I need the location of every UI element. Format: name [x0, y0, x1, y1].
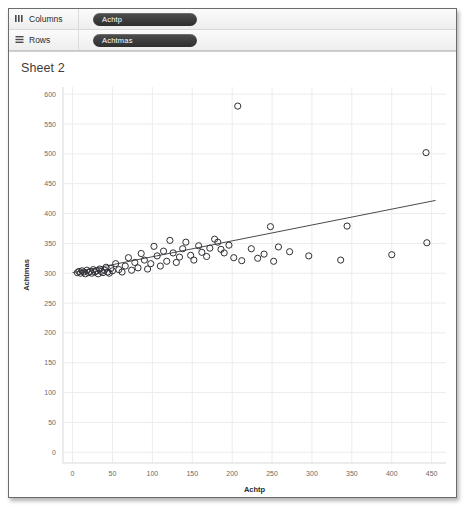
scatter-point[interactable]	[164, 258, 170, 264]
scatter-point[interactable]	[151, 243, 157, 249]
y-tick-label: 200	[44, 329, 56, 336]
scatter-plot-svg[interactable]: 0501001502002503003504004505005506000501…	[9, 75, 456, 505]
x-tick-label: 50	[109, 470, 117, 477]
pill-achtmas[interactable]: Achtmas	[93, 34, 197, 47]
scatter-point[interactable]	[424, 240, 430, 246]
x-tick-label: 350	[346, 470, 358, 477]
y-tick-label: 400	[44, 210, 56, 217]
scatter-point[interactable]	[125, 255, 131, 261]
y-tick-label: 500	[44, 150, 56, 157]
x-tick-label: 150	[186, 470, 198, 477]
shelf-area: Columns Achtp Rows Achtmas	[9, 9, 456, 52]
x-tick-label: 450	[426, 470, 438, 477]
x-tick-label: 400	[386, 470, 398, 477]
scatter-point[interactable]	[239, 258, 245, 264]
y-tick-label: 350	[44, 240, 56, 247]
scatter-point[interactable]	[122, 263, 128, 269]
scatter-point[interactable]	[271, 258, 277, 264]
y-tick-label: 150	[44, 359, 56, 366]
y-tick-label: 300	[44, 270, 56, 277]
pill-achtp[interactable]: Achtp	[93, 13, 197, 26]
y-tick-label: 100	[44, 389, 56, 396]
scatter-plot-canvas[interactable]: 0501001502002503003504004505005506000501…	[9, 75, 456, 505]
y-tick-label: 550	[44, 121, 56, 128]
scatter-point[interactable]	[157, 263, 163, 269]
scatter-point[interactable]	[183, 239, 189, 245]
y-tick-label: 0	[52, 449, 56, 456]
columns-icon	[15, 14, 24, 25]
scatter-point[interactable]	[275, 244, 281, 250]
scatter-point[interactable]	[344, 223, 350, 229]
shelf-columns-label: Columns	[29, 14, 63, 24]
y-tick-label: 450	[44, 180, 56, 187]
scatter-point[interactable]	[338, 257, 344, 263]
shelf-columns[interactable]: Columns Achtp	[9, 9, 456, 30]
scatter-point[interactable]	[287, 249, 293, 255]
scatter-point[interactable]	[204, 253, 210, 259]
y-tick-label: 600	[44, 91, 56, 98]
scatter-point[interactable]	[129, 267, 135, 273]
x-axis-title: Achtp	[244, 485, 266, 494]
scatter-point[interactable]	[176, 254, 182, 260]
scatter-point[interactable]	[306, 253, 312, 259]
x-tick-label: 300	[306, 470, 318, 477]
x-tick-label: 250	[266, 470, 278, 477]
y-axis-title: Achtmas	[22, 259, 31, 291]
scatter-point[interactable]	[255, 255, 261, 261]
scatter-point[interactable]	[248, 246, 254, 252]
scatter-point[interactable]	[138, 250, 144, 256]
scatter-point[interactable]	[231, 255, 237, 261]
scatter-point[interactable]	[261, 251, 267, 257]
shelf-rows-dropzone[interactable]: Achtmas	[79, 30, 456, 50]
scatter-point[interactable]	[267, 224, 273, 230]
x-tick-label: 0	[71, 470, 75, 477]
shelf-columns-label-group: Columns	[9, 9, 79, 29]
scatter-point[interactable]	[148, 261, 154, 267]
sheet-title: Sheet 2	[9, 52, 456, 75]
trend-line	[73, 200, 436, 272]
rows-icon	[15, 35, 24, 46]
shelf-rows-label-group: Rows	[9, 30, 79, 50]
scatter-point[interactable]	[423, 150, 429, 156]
shelf-columns-dropzone[interactable]: Achtp	[79, 9, 456, 29]
scatter-point[interactable]	[167, 237, 173, 243]
y-tick-label: 250	[44, 300, 56, 307]
y-tick-label: 50	[48, 419, 56, 426]
viz-window: Columns Achtp Rows Achtmas	[8, 8, 457, 498]
x-tick-label: 200	[226, 470, 238, 477]
scatter-point[interactable]	[135, 265, 141, 271]
scatter-point[interactable]	[235, 103, 241, 109]
scatter-point[interactable]	[191, 257, 197, 263]
scatter-point[interactable]	[160, 248, 166, 254]
scatter-point[interactable]	[207, 245, 213, 251]
x-tick-label: 100	[147, 470, 159, 477]
shelf-rows[interactable]: Rows Achtmas	[9, 30, 456, 51]
shelf-rows-label: Rows	[29, 35, 50, 45]
